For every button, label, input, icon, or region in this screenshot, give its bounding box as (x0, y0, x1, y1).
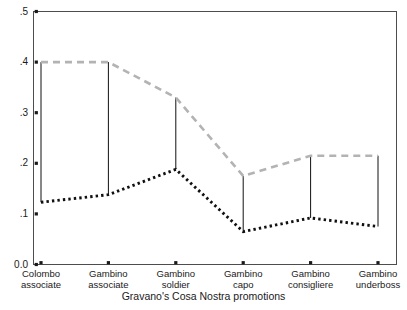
y-axis-tick-label: .1 (0, 209, 28, 219)
y-axis-tick-label: .5 (0, 7, 28, 17)
series-lower-bound-line (41, 169, 378, 231)
y-axis-tick-label: .4 (0, 57, 28, 67)
y-axis-tick-label: .2 (0, 158, 28, 168)
x-axis-tick-label: Gambinounderboss (338, 268, 407, 290)
series-upper-bound-line (41, 62, 378, 176)
chart-plot-area (0, 0, 407, 310)
x-axis-tick-label-line: Gambino (338, 268, 407, 279)
x-axis-tick-label-line: underboss (338, 279, 407, 290)
y-axis-ticks (35, 10, 38, 266)
x-axis-ticks (39, 261, 379, 264)
x-axis-title: Gravano's Cosa Nostra promotions (0, 290, 407, 302)
chart-figure: 0.0.1.2.3.4.5 ColomboassociateGambinoass… (0, 0, 407, 310)
y-axis-tick-label: .3 (0, 108, 28, 118)
interval-bars (41, 62, 378, 232)
plot-frame (34, 12, 397, 265)
